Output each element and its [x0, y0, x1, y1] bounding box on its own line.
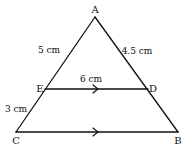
vertex-label-A: A — [90, 4, 99, 15]
measure-AE: 5 cm — [38, 45, 61, 55]
triangle-diagram: A E D C B 5 cm 4.5 cm 6 cm 3 cm — [0, 0, 184, 148]
vertex-label-D: D — [149, 83, 157, 94]
vertex-label-E: E — [36, 83, 43, 94]
measure-ED: 6 cm — [80, 74, 103, 84]
vertex-label-B: B — [174, 135, 181, 146]
vertex-label-C: C — [12, 135, 20, 146]
measure-EC: 3 cm — [5, 104, 28, 114]
side-AB — [95, 17, 178, 132]
measure-AD: 4.5 cm — [122, 46, 153, 56]
